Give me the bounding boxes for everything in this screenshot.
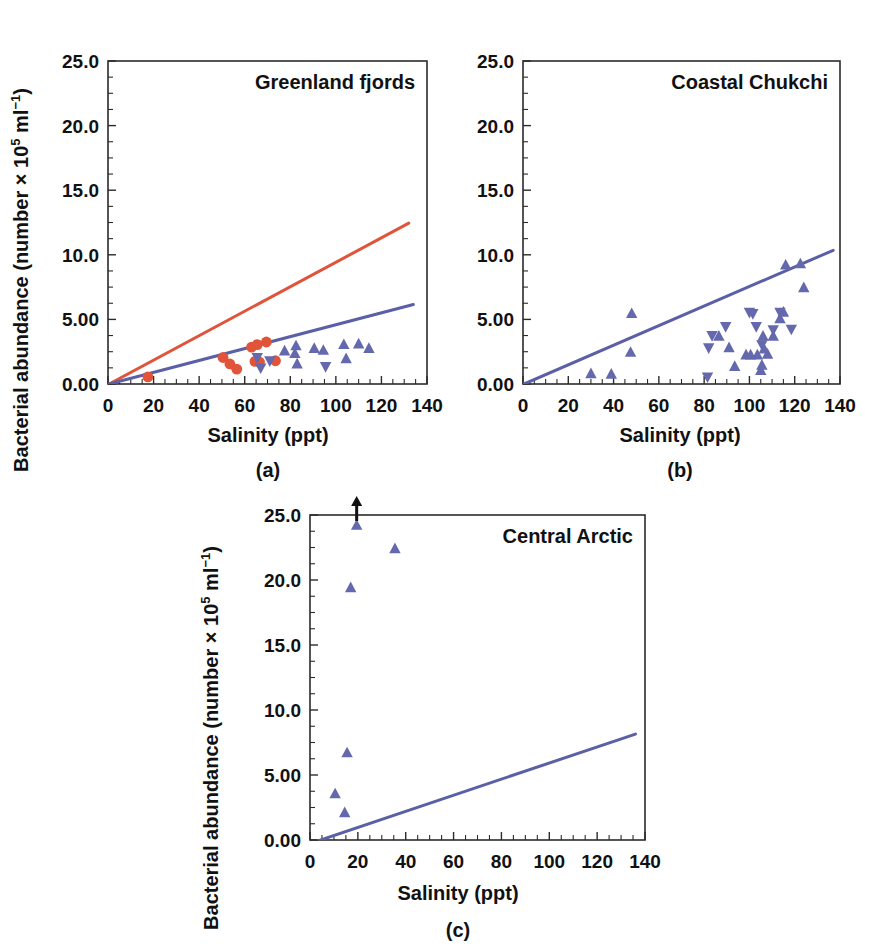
- x-axis-title: Salinity (ppt): [397, 882, 518, 904]
- data-point-triangle-down: [751, 322, 762, 333]
- x-tick-label: 120: [779, 395, 811, 416]
- y-tick-label: 5.00: [477, 309, 514, 330]
- data-point-triangle-up: [340, 353, 351, 364]
- x-tick-label: 80: [491, 851, 512, 872]
- y-axis-title-part1: Bacterial abundance (number: [10, 185, 32, 472]
- x-tick-label: 140: [629, 851, 661, 872]
- y-tick-label: 25.0: [62, 51, 99, 72]
- off-scale-arrow-icon: [351, 496, 362, 521]
- data-point-triangle-up: [309, 342, 320, 353]
- data-point-triangle-up: [353, 338, 364, 349]
- panel-b-layer: [524, 250, 833, 384]
- data-point-triangle-up: [363, 342, 374, 353]
- data-point-triangle-down: [255, 363, 266, 374]
- y-axis-title-sup5: 5: [8, 138, 23, 145]
- data-point-triangle-up: [339, 807, 350, 818]
- y-tick-label: 10.0: [62, 245, 99, 266]
- panel-caption: (a): [256, 459, 280, 481]
- panel-c-layer: [315, 519, 636, 842]
- figure-root: Bacterial abundance (number × 105 ml−1) …: [0, 0, 887, 950]
- y-axis-title-close: ): [10, 88, 32, 95]
- y-tick-label: 25.0: [264, 505, 301, 526]
- y-axis-title-close: ): [200, 546, 222, 553]
- data-point-circle: [142, 371, 153, 382]
- data-point-triangle-up: [625, 346, 636, 357]
- panel-b-axes: 0204060801001201400.005.0010.015.020.025…: [477, 51, 856, 416]
- y-axis-title: Bacterial abundance (number × 105 ml−1): [198, 546, 222, 930]
- x-tick-label: 100: [734, 395, 766, 416]
- data-point-triangle-down: [703, 343, 714, 354]
- y-tick-label: 20.0: [62, 116, 99, 137]
- data-point-triangle-up: [757, 330, 768, 341]
- data-point-triangle-up: [626, 307, 637, 318]
- panel-a-plot: Bacterial abundance (number × 105 ml−1) …: [0, 30, 450, 490]
- x-tick-label: 100: [320, 395, 352, 416]
- x-tick-label: 100: [533, 851, 565, 872]
- x-tick-label: 40: [395, 851, 416, 872]
- y-axis-title-mid: ml: [10, 110, 32, 139]
- data-point-triangle-up: [318, 344, 329, 355]
- y-axis-title-supneg1: −1: [198, 553, 213, 568]
- x-tick-label: 120: [366, 395, 398, 416]
- x-tick-label: 40: [603, 395, 624, 416]
- data-point-circle: [252, 339, 263, 350]
- data-point-triangle-up: [780, 259, 791, 270]
- data-point-triangle-up: [798, 282, 809, 293]
- y-tick-label: 0.00: [477, 374, 514, 395]
- x-axis-title: Salinity (ppt): [619, 424, 740, 446]
- y-tick-label: 20.0: [264, 570, 301, 591]
- y-tick-label: 25.0: [477, 51, 514, 72]
- x-tick-label: 0: [103, 395, 114, 416]
- data-point-triangle-up: [290, 340, 301, 351]
- y-tick-label: 15.0: [62, 180, 99, 201]
- data-point-triangle-up: [279, 345, 290, 356]
- panel-greenland-fjords: Bacterial abundance (number × 105 ml−1) …: [0, 30, 450, 490]
- data-point-circle: [261, 337, 272, 348]
- panel-coastal-chukchi: 0204060801001201400.005.0010.015.020.025…: [440, 30, 887, 490]
- panel-central-arctic: Bacterial abundance (number × 105 ml−1) …: [190, 488, 680, 950]
- y-tick-label: 15.0: [477, 180, 514, 201]
- panel-c-plot: Bacterial abundance (number × 105 ml−1) …: [190, 488, 680, 950]
- x-tick-label: 140: [824, 395, 856, 416]
- data-point-triangle-down: [786, 325, 797, 336]
- x-tick-label: 80: [694, 395, 715, 416]
- data-point-triangle-up: [345, 582, 356, 593]
- data-point-triangle-down: [320, 362, 331, 373]
- data-point-triangle-up: [729, 360, 740, 371]
- data-point-triangle-up: [723, 342, 734, 353]
- panel-b-plot: 0204060801001201400.005.0010.015.020.025…: [440, 30, 887, 490]
- regression-line: [315, 734, 636, 842]
- panel-c-axes: 0204060801001201400.005.0010.015.020.025…: [264, 505, 661, 872]
- data-point-circle: [231, 364, 242, 375]
- y-tick-label: 0.00: [62, 374, 99, 395]
- y-axis-title-supneg1: −1: [8, 95, 23, 110]
- x-tick-label: 80: [280, 395, 301, 416]
- data-point-triangle-down: [767, 325, 778, 336]
- panel-title: Greenland fjords: [255, 71, 415, 93]
- x-tick-label: 20: [347, 851, 368, 872]
- y-tick-label: 5.00: [264, 765, 301, 786]
- x-tick-label: 0: [518, 395, 529, 416]
- data-point-triangle-down: [720, 322, 731, 333]
- y-tick-label: 10.0: [264, 700, 301, 721]
- data-point-triangle-up: [756, 359, 767, 370]
- panel-title: Coastal Chukchi: [671, 71, 828, 93]
- y-tick-label: 5.00: [62, 309, 99, 330]
- y-tick-label: 15.0: [264, 635, 301, 656]
- y-tick-label: 0.00: [264, 830, 301, 851]
- data-point-triangle-up: [341, 747, 352, 758]
- x-tick-label: 0: [305, 851, 316, 872]
- y-axis-title-times: × 10: [200, 604, 222, 643]
- panel-caption: (c): [446, 919, 470, 941]
- panel-title: Central Arctic: [503, 525, 633, 547]
- y-axis-title: Bacterial abundance (number × 105 ml−1): [8, 88, 32, 472]
- y-tick-label: 10.0: [477, 245, 514, 266]
- x-tick-label: 60: [234, 395, 255, 416]
- panel-caption: (b): [667, 459, 693, 481]
- x-tick-label: 40: [189, 395, 210, 416]
- y-tick-label: 20.0: [477, 116, 514, 137]
- data-point-triangle-up: [389, 543, 400, 554]
- regression-line: [524, 250, 833, 384]
- data-point-triangle-up: [606, 368, 617, 379]
- data-point-triangle-up: [329, 788, 340, 799]
